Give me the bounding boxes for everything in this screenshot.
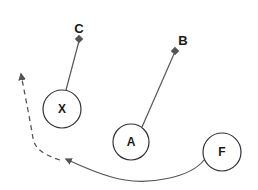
node-a[interactable]: A [113,124,149,160]
node-x-label: X [58,102,66,116]
label-c: C [74,21,84,36]
node-x[interactable]: X [43,90,81,128]
node-a-label: A [127,135,136,149]
node-f[interactable]: F [203,133,241,171]
node-f-label: F [218,145,225,159]
diagram-canvas: X A F C B [0,0,258,190]
diamond-marker-c [75,35,83,43]
edge-a-to-b [142,54,174,127]
label-b: B [178,33,187,48]
edge-x-to-c [66,41,79,90]
edge-f-curve [66,159,204,181]
diamond-marker-b [171,47,179,55]
